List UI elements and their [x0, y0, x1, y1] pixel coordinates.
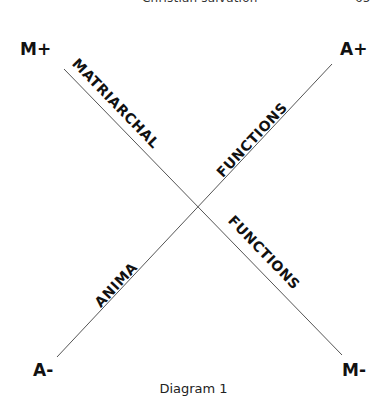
- pole-m-plus: M+: [20, 41, 51, 58]
- pole-m-minus: M-: [342, 362, 366, 379]
- cross-diagram: [0, 0, 387, 409]
- diagram-caption: Diagram 1: [0, 381, 387, 396]
- pole-a-minus: A-: [33, 362, 53, 379]
- pole-a-plus: A+: [340, 41, 367, 58]
- anima-axis-line: [57, 64, 332, 357]
- matriarchal-axis-line: [64, 69, 342, 355]
